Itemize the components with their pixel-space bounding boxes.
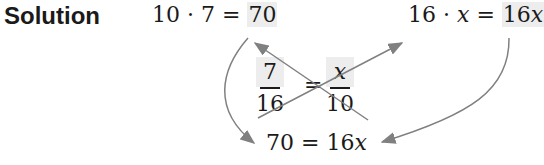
arrow-16-to-x-icon [258,43,402,118]
arrow-16x-down-icon [382,38,509,142]
arrow-10-to-7-icon [255,43,368,120]
arrow-70-down-icon [225,38,254,143]
eq2-rhs-var: x [531,2,543,27]
